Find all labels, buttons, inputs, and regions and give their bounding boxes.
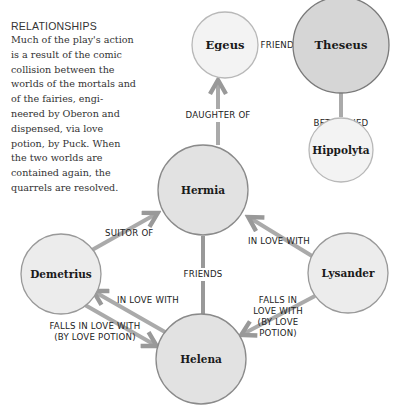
node-label: Theseus: [315, 38, 368, 52]
node-hermia: Hermia: [158, 145, 248, 235]
node-label: Helena: [180, 353, 222, 365]
edge-label: SUITOR OF: [105, 228, 154, 238]
node-demetrius: Demetrius: [21, 234, 101, 314]
edge-label: DAUGHTER OF: [185, 110, 250, 120]
node-theseus: Theseus: [293, 0, 389, 93]
node-label: Demetrius: [30, 268, 92, 280]
node-helena: Helena: [156, 314, 246, 404]
node-label: Egeus: [206, 38, 245, 52]
edge-label: FALLS IN LOVE WITH: [50, 321, 141, 331]
edge-label: POTION): [259, 328, 297, 338]
edge-label: LOVE WITH: [253, 306, 303, 316]
edge-label: (BY LOVE: [258, 317, 299, 327]
node-label: Lysander: [321, 267, 374, 279]
node-label: Hermia: [181, 184, 225, 196]
edge-label: FRIENDS: [184, 269, 223, 279]
node-egeus: Egeus: [192, 12, 258, 78]
edge-label: IN LOVE WITH: [117, 295, 179, 305]
node-hippolyta: Hippolyta: [309, 118, 373, 182]
node-lysander: Lysander: [308, 233, 388, 313]
edge-label: (BY LOVE POTION): [54, 332, 135, 342]
edge-label: IN LOVE WITH: [248, 236, 310, 246]
edge-label: FALLS IN: [259, 295, 297, 305]
relationship-diagram: FRIENDS BETROTHED DAUGHTER OF SUITOR OF …: [0, 0, 396, 411]
node-label: Hippolyta: [312, 144, 370, 156]
